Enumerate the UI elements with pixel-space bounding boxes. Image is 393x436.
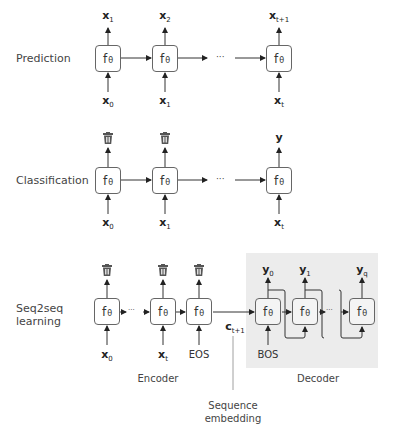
var-sub: 1 — [306, 270, 310, 278]
var-sub: t — [165, 355, 168, 363]
input-xt: xt — [259, 95, 299, 111]
ellipsis: ··· — [326, 306, 333, 314]
rnn-cell: fθ — [95, 167, 121, 194]
rnn-cell: fθ — [95, 45, 121, 72]
connector-lines — [0, 0, 393, 436]
context-vector: ct+1 — [215, 321, 255, 337]
input-x1: x1 — [145, 217, 185, 233]
row-label-classification: Classification — [16, 174, 89, 187]
cell-sub: θ — [108, 178, 113, 187]
decoder-cell: fθ — [349, 298, 375, 325]
cell-label: f — [274, 174, 278, 188]
var-sub: t+1 — [276, 16, 289, 24]
output-x1: x1 — [88, 10, 128, 26]
output-yq: yq — [342, 264, 382, 280]
cell-label: f — [357, 305, 361, 319]
cell-label: f — [274, 52, 278, 66]
cell-label: f — [263, 305, 267, 319]
encoder-cell: fθ — [94, 298, 120, 325]
cell-label: f — [160, 52, 164, 66]
var-sub: 0 — [269, 270, 273, 278]
encoder-cell: fθ — [186, 298, 212, 325]
annotation-line: embedding — [198, 412, 268, 425]
var-sub: 1 — [109, 16, 113, 24]
cell-label: f — [160, 174, 164, 188]
row-label-seq2seq: Seq2seqlearning — [16, 302, 63, 328]
rnn-cell: fθ — [266, 45, 292, 72]
decoder-cell: fθ — [255, 298, 281, 325]
ellipsis: ··· — [216, 52, 225, 62]
encoder-cell: fθ — [150, 298, 176, 325]
input-xt: xt — [259, 217, 299, 233]
cell-sub: θ — [268, 309, 273, 318]
var-sub: t+1 — [232, 327, 245, 335]
rnn-cell: fθ — [266, 167, 292, 194]
cell-label: f — [194, 305, 198, 319]
ellipsis: ··· — [128, 306, 135, 314]
input-x1: x1 — [145, 95, 185, 111]
var-sub: 1 — [166, 223, 170, 231]
cell-sub: θ — [163, 309, 168, 318]
var-sub: 1 — [166, 101, 170, 109]
cell-label: f — [103, 174, 107, 188]
label-line: Seq2seq — [16, 302, 63, 315]
cell-sub: θ — [305, 309, 310, 318]
cell-label: f — [300, 305, 304, 319]
output-y1: y1 — [285, 264, 325, 280]
var-sub: 2 — [166, 16, 170, 24]
trash-icon — [102, 264, 112, 276]
var-sub: t — [281, 223, 284, 231]
rnn-cell: fθ — [152, 45, 178, 72]
input-x0: x0 — [88, 95, 128, 111]
cell-label: f — [158, 305, 162, 319]
var-sub: 0 — [108, 355, 112, 363]
cell-label: f — [103, 52, 107, 66]
cell-sub: θ — [362, 309, 367, 318]
cell-sub: θ — [165, 178, 170, 187]
var-sub: 0 — [109, 223, 113, 231]
cell-sub: θ — [279, 178, 284, 187]
cell-sub: θ — [165, 56, 170, 65]
label-line: learning — [16, 315, 63, 328]
rnn-cell: fθ — [152, 167, 178, 194]
eos-token: EOS — [179, 349, 219, 360]
cell-sub: θ — [199, 309, 204, 318]
var-base: x — [269, 9, 276, 22]
output-x2: x2 — [145, 10, 185, 26]
cell-sub: θ — [279, 56, 284, 65]
ellipsis: ··· — [216, 174, 225, 184]
row-label-prediction: Prediction — [16, 52, 71, 65]
decoder-cell: fθ — [292, 298, 318, 325]
output-xt1: xt+1 — [259, 10, 299, 26]
decoder-label: Decoder — [288, 373, 348, 384]
trash-icon — [194, 264, 204, 276]
trash-icon — [158, 264, 168, 276]
var-sub: 0 — [109, 101, 113, 109]
cell-sub: θ — [108, 56, 113, 65]
annotation-line: Sequence — [198, 399, 268, 412]
trash-icon — [103, 132, 113, 144]
input-xt: xt — [143, 349, 183, 365]
output-y0: y0 — [248, 264, 288, 280]
cell-label: f — [102, 305, 106, 319]
var-sub: q — [363, 270, 367, 278]
bos-token: BOS — [248, 349, 288, 360]
output-y: y — [259, 132, 299, 144]
encoder-label: Encoder — [128, 373, 188, 384]
input-x0: x0 — [87, 349, 127, 365]
trash-icon — [160, 132, 170, 144]
cell-sub: θ — [107, 309, 112, 318]
sequence-embedding-annotation: Sequenceembedding — [198, 399, 268, 425]
input-x0: x0 — [88, 217, 128, 233]
var-sub: t — [281, 101, 284, 109]
